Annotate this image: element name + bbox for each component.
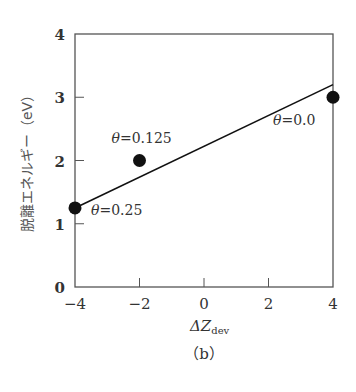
x-tick-labels: −4−2024	[64, 295, 338, 313]
y-tick-label: 3	[55, 89, 65, 107]
y-tick-label: 1	[55, 216, 65, 234]
data-point	[69, 201, 82, 214]
data-points	[69, 91, 340, 215]
chart-svg: −4−2024 01234 θ=0.25θ=0.125θ=0.0 脱離エネルギー…	[0, 0, 356, 392]
data-point	[133, 154, 146, 167]
data-point	[327, 91, 340, 104]
axis-ticks	[75, 97, 269, 287]
y-tick-label: 0	[55, 279, 65, 297]
point-label: θ=0.0	[273, 112, 315, 128]
fit-line	[75, 85, 333, 208]
y-tick-labels: 01234	[55, 26, 65, 297]
y-axis-label: 脱離エネルギー（eV）	[19, 88, 35, 232]
point-label: θ=0.125	[112, 130, 172, 146]
y-tick-label: 4	[55, 26, 65, 44]
x-axis-label: ΔZdev	[189, 317, 230, 336]
x-axis-label-main: ΔZ	[189, 317, 212, 335]
chart: −4−2024 01234 θ=0.25θ=0.125θ=0.0 脱離エネルギー…	[0, 0, 356, 392]
point-label: θ=0.25	[91, 202, 142, 218]
y-tick-label: 2	[55, 153, 65, 171]
x-axis-label-sub: dev	[211, 325, 229, 336]
x-tick-label: 0	[199, 295, 209, 313]
x-tick-label: 4	[328, 295, 338, 313]
figure-caption: （b）	[184, 345, 224, 363]
fit-line-segment	[75, 85, 333, 208]
x-tick-label: 2	[264, 295, 274, 313]
x-tick-label: −4	[64, 295, 86, 313]
x-tick-label: −2	[128, 295, 150, 313]
point-annotations: θ=0.25θ=0.125θ=0.0	[91, 112, 315, 218]
plot-frame	[75, 34, 333, 287]
